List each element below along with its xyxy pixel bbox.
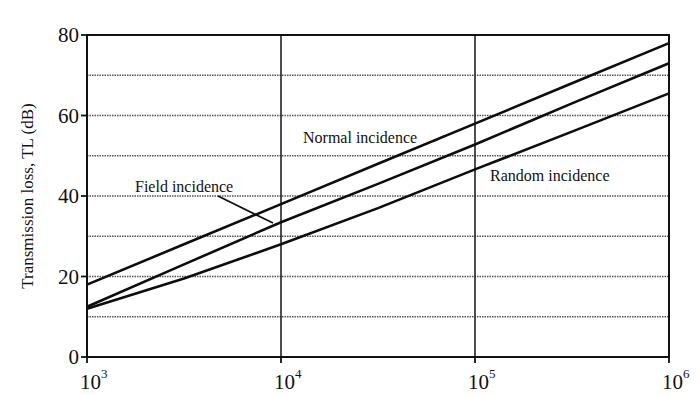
y-tick-label: 80 xyxy=(58,23,79,47)
field-incidence-label: Field incidence xyxy=(135,178,233,195)
annotation-random-incidence: Random incidence xyxy=(490,167,610,184)
x-tick-exponent: 5 xyxy=(489,366,496,381)
x-tick-exponent: 3 xyxy=(101,366,108,381)
y-tick-label: 60 xyxy=(58,104,79,128)
y-axis-title: Transmission loss, TL (dB) xyxy=(18,103,37,288)
annotation-normal-incidence: Normal incidence xyxy=(303,129,444,146)
grid xyxy=(87,35,669,357)
x-tick-label: 10 xyxy=(274,370,295,394)
random-incidence-label: Random incidence xyxy=(490,167,610,184)
normal-incidence-line xyxy=(87,43,669,285)
normal-incidence-leader xyxy=(434,136,444,141)
y-tick-label: 40 xyxy=(58,184,79,208)
transmission-loss-chart: 020406080103104105106 Transmission loss,… xyxy=(0,0,700,395)
axes xyxy=(81,35,669,363)
y-tick-label: 0 xyxy=(69,345,80,369)
x-tick-label: 10 xyxy=(80,370,101,394)
normal-incidence-label: Normal incidence xyxy=(303,129,417,146)
x-tick-exponent: 6 xyxy=(683,366,690,381)
x-tick-exponent: 4 xyxy=(295,366,302,381)
y-tick-label: 20 xyxy=(58,265,79,289)
x-tick-label: 10 xyxy=(468,370,489,394)
chart: 020406080103104105106 Transmission loss,… xyxy=(0,0,700,395)
x-tick-label: 10 xyxy=(662,370,683,394)
